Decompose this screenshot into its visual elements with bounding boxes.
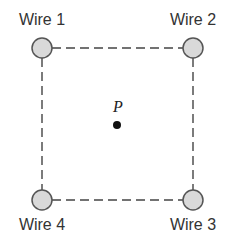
point-p-label: P <box>113 98 123 116</box>
wire-2-label: Wire 2 <box>170 11 216 29</box>
square-diagram <box>0 0 235 243</box>
wire-4-label: Wire 4 <box>19 216 65 234</box>
wire-1-label: Wire 1 <box>19 11 65 29</box>
point-p-dot <box>113 121 121 129</box>
wire-4-circle <box>32 190 52 210</box>
wire-1-circle <box>32 38 52 58</box>
wire-3-circle <box>183 190 203 210</box>
wire-3-label: Wire 3 <box>170 216 216 234</box>
wire-2-circle <box>183 38 203 58</box>
